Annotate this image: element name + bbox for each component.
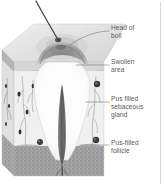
skin-block-illustration <box>0 0 165 186</box>
boil-cross-section-figure: Head of boil Swollen area Pus filled seb… <box>0 0 165 186</box>
label-pus-filled-follicle: Pus-filled follicle <box>111 139 139 155</box>
label-head-of-boil: Head of boil <box>111 24 134 40</box>
skin-front-cross-section <box>14 58 104 180</box>
skin-left-face <box>2 50 14 176</box>
label-swollen-area: Swollen area <box>111 58 134 74</box>
label-pus-filled-sebaceous-gland: Pus filled sebaceous gland <box>111 95 143 120</box>
